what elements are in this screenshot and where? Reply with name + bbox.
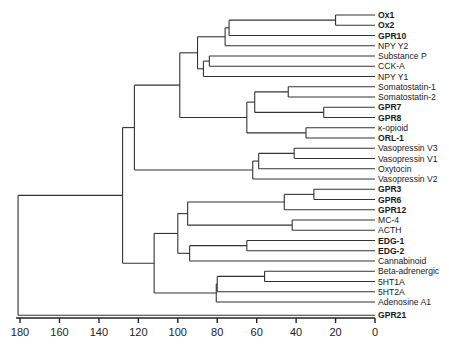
leaf-label: GPR10: [378, 31, 406, 41]
x-axis-tick-label: 160: [50, 326, 68, 338]
leaf-label: Somatostatin-2: [378, 92, 436, 102]
leaf-label: EDG-2: [378, 246, 404, 256]
leaf-label: CCK-A: [378, 61, 405, 71]
leaf-label: Oxytocin: [378, 164, 412, 174]
leaf-label: GPR12: [378, 205, 406, 215]
leaf-label: Vasopressin V1: [378, 154, 438, 164]
x-axis-tick-label: 20: [329, 326, 341, 338]
x-axis-tick-label: 60: [251, 326, 263, 338]
leaf-label: 5HT2A: [378, 287, 405, 297]
leaf-label: GPR7: [378, 102, 402, 112]
leaf-label: GPR3: [378, 184, 402, 194]
leaf-label: NPY Y1: [378, 72, 408, 82]
leaf-label: κ-opioid: [378, 123, 408, 133]
leaf-label: MC-4: [378, 215, 399, 225]
leaf-label: ACTH: [378, 225, 401, 235]
leaf-label: NPY Y2: [378, 41, 408, 51]
x-axis-tick-label: 100: [169, 326, 187, 338]
leaf-labels: Ox1Ox2GPR10NPY Y2Substance PCCK-ANPY Y1S…: [378, 10, 440, 320]
x-axis-tick-label: 40: [290, 326, 302, 338]
x-axis-tick-label: 120: [129, 326, 147, 338]
leaf-label: GPR8: [378, 113, 402, 123]
leaf-label: EDG-1: [378, 236, 404, 246]
leaf-label: Adenosine A1: [378, 297, 431, 307]
x-axis-tick-label: 80: [211, 326, 223, 338]
leaf-label: Cannabinoid: [378, 256, 426, 266]
leaf-label: Ox1: [378, 10, 394, 20]
dendrogram-branches: [18, 15, 375, 315]
leaf-label: Substance P: [378, 51, 427, 61]
leaf-label: Somatostatin-1: [378, 82, 436, 92]
leaf-label: Beta-adrenergic: [378, 266, 440, 276]
x-axis-tick-label: 140: [90, 326, 108, 338]
x-axis: 180160140120100806040200: [11, 318, 378, 338]
leaf-label: Vasopressin V2: [378, 174, 438, 184]
leaf-label: ORL-1: [378, 133, 404, 143]
leaf-label: GPR6: [378, 195, 402, 205]
leaf-label: Vasopressin V3: [378, 143, 438, 153]
x-axis-tick-label: 180: [11, 326, 29, 338]
dendrogram-chart: Ox1Ox2GPR10NPY Y2Substance PCCK-ANPY Y1S…: [0, 0, 449, 345]
leaf-label: Ox2: [378, 20, 394, 30]
leaf-label: 5HT1A: [378, 277, 405, 287]
x-axis-tick-label: 0: [372, 326, 378, 338]
leaf-label: GPR21: [378, 310, 406, 320]
